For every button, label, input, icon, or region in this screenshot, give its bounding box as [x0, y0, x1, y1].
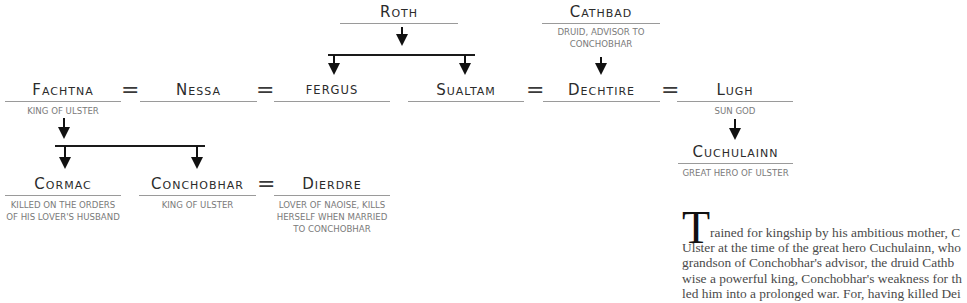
person-description: Killed on the orders: [5, 199, 121, 211]
name-underline: [5, 195, 121, 196]
person-name: Sualtam: [408, 82, 524, 98]
person-cormac: Cormac Killed on the orders of his lover…: [5, 176, 121, 223]
marriage-symbol: =: [256, 80, 274, 100]
person-description: of his lover's husband: [5, 211, 121, 223]
person-dechtire: Dechtire: [543, 82, 660, 102]
person-description: to Conchobhar: [274, 223, 390, 235]
person-name: Dierdre: [274, 176, 390, 192]
person-lugh: Lugh Sun god: [677, 82, 793, 117]
person-name: Nessa: [140, 82, 257, 98]
person-roth: Roth: [340, 4, 458, 24]
name-underline: [274, 195, 390, 196]
sibling-bar: [328, 54, 475, 56]
person-fergus: fergus: [274, 82, 390, 102]
person-description: Conchobhar: [542, 38, 660, 50]
person-description: King of Ulster: [5, 105, 121, 117]
name-underline: [274, 101, 390, 102]
person-cathbad: Cathbad Druid, advisor to Conchobhar: [542, 4, 660, 50]
person-name: Fachtna: [5, 82, 121, 98]
name-underline: [340, 23, 458, 24]
person-name: Cuchulainn: [678, 144, 793, 160]
person-description: Druid, advisor to: [542, 26, 660, 38]
name-underline: [140, 101, 257, 102]
person-name: Roth: [340, 4, 458, 20]
person-name: Cormac: [5, 176, 121, 192]
person-description: Great hero of Ulster: [678, 167, 793, 179]
marriage-symbol: =: [121, 80, 139, 100]
article-line: led him into a prolonged war. For, havin…: [682, 286, 967, 301]
name-underline: [542, 23, 660, 24]
name-underline: [5, 101, 121, 102]
name-underline: [543, 101, 660, 102]
person-description: herself when married: [274, 211, 390, 223]
person-sualtam: Sualtam: [408, 82, 524, 102]
person-fachtna: Fachtna King of Ulster: [5, 82, 121, 117]
person-description: Sun god: [677, 105, 793, 117]
sibling-bar: [55, 145, 205, 147]
person-name: Conchobhar: [139, 176, 256, 192]
article-line: grandson of Conchobhar's advisor, the dr…: [682, 255, 967, 270]
person-name: fergus: [274, 82, 390, 98]
person-nessa: Nessa: [140, 82, 257, 102]
marriage-symbol: =: [526, 80, 544, 100]
person-cuchulainn: Cuchulainn Great hero of Ulster: [678, 144, 793, 179]
article-paragraph: rained for kingship by his ambitious mot…: [682, 214, 967, 301]
article-line: Ulster at the time of the great hero Cuc…: [682, 240, 967, 255]
marriage-symbol: =: [257, 174, 275, 194]
name-underline: [139, 195, 256, 196]
person-description: Lover of Naoise, kills: [274, 199, 390, 211]
person-name: Cathbad: [542, 4, 660, 20]
article-line: wise a powerful king, Conchobhar's weakn…: [682, 271, 967, 286]
name-underline: [408, 101, 524, 102]
person-name: Dechtire: [543, 82, 660, 98]
person-name: Lugh: [677, 82, 793, 98]
article-line: rained for kingship by his ambitious mot…: [682, 225, 967, 240]
name-underline: [677, 101, 793, 102]
person-conchobhar: Conchobhar King of Ulster: [139, 176, 256, 211]
person-description: King of Ulster: [139, 199, 256, 211]
person-dierdre: Dierdre Lover of Naoise, kills herself w…: [274, 176, 390, 235]
name-underline: [678, 163, 793, 164]
